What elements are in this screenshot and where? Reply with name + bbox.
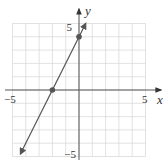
coordinate-plane: −5 5 5 −5 x y: [0, 0, 167, 162]
y-axis-label: y: [83, 3, 91, 18]
y-tick-max: 5: [67, 21, 73, 33]
x-tick-min: −5: [4, 93, 16, 105]
y-tick-min: −5: [64, 148, 76, 160]
point-marker: [50, 87, 56, 93]
point-marker: [76, 34, 82, 40]
x-axis-label: x: [156, 92, 163, 107]
x-tick-max: 5: [142, 93, 148, 105]
